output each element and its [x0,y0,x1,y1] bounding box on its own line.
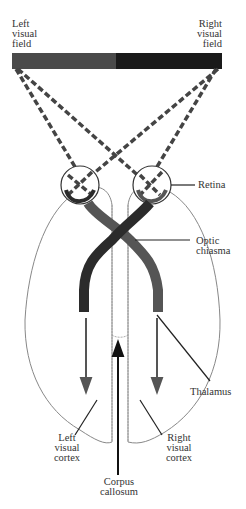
left-visual-field-label: Left visual field [12,19,37,49]
left-visual-cortex-label: Left visual cortex [50,433,84,463]
left-cortex-leader [75,400,97,435]
thalamus-label: Thalamus [190,387,231,397]
left-eye [61,166,99,204]
light-rays [16,69,218,195]
optic-chiasma-label: Optic chiasma [196,236,230,256]
right-visual-field-label: Right visual field [197,19,222,49]
right-visual-field-bar [116,53,222,69]
corpus-callosum-label: Corpus callosum [96,477,142,497]
retina-label: Retina [198,180,225,190]
right-eye [133,166,171,204]
corpus-callosum-arrow [113,342,123,475]
left-hemisphere-outline [25,187,112,443]
right-visual-cortex-label: Right visual cortex [162,433,196,463]
right-hemisphere-outline [128,187,220,443]
thalamus-leader [157,315,210,381]
right-cortex-leader [140,400,162,435]
left-visual-field-bar [12,53,116,69]
